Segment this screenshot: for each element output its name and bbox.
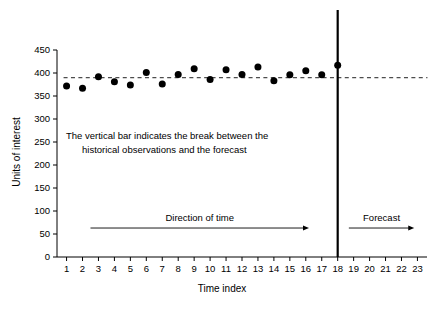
data-point xyxy=(127,81,134,88)
break-note-line-2: historical observations and the forecast xyxy=(82,144,247,155)
y-tick-label: 200 xyxy=(34,159,50,170)
data-point xyxy=(175,71,182,78)
y-axis-title: Units of interest xyxy=(11,117,22,187)
x-tick-label: 14 xyxy=(269,263,280,274)
y-tick-label: 400 xyxy=(34,67,50,78)
y-tick-label: 100 xyxy=(34,205,50,216)
x-tick-label: 5 xyxy=(128,263,133,274)
x-tick-label: 11 xyxy=(221,263,231,274)
x-tick-label: 12 xyxy=(237,263,248,274)
y-tick-label: 50 xyxy=(39,228,50,239)
x-tick-label: 3 xyxy=(96,263,101,274)
data-point xyxy=(159,81,166,88)
x-tick-label: 4 xyxy=(112,263,117,274)
x-tick-label: 8 xyxy=(176,263,181,274)
x-tick-label: 15 xyxy=(285,263,296,274)
chart-figure: 050100150200250300350400450 123456789101… xyxy=(0,0,444,309)
data-point xyxy=(286,71,293,78)
forecast-label: Forecast xyxy=(363,212,400,223)
direction-of-time-label: Direction of time xyxy=(165,212,234,223)
data-point xyxy=(302,67,309,74)
x-tick-label: 21 xyxy=(380,263,391,274)
y-tick-label: 350 xyxy=(34,90,50,101)
x-tick-label: 10 xyxy=(205,263,216,274)
x-tick-label: 6 xyxy=(144,263,149,274)
data-point xyxy=(111,78,118,85)
data-point xyxy=(270,77,277,84)
data-point xyxy=(318,71,325,78)
x-tick-label: 7 xyxy=(160,263,165,274)
data-point xyxy=(191,65,198,72)
data-point xyxy=(254,64,261,71)
y-tick-label: 250 xyxy=(34,136,50,147)
x-tick-label: 2 xyxy=(80,263,85,274)
data-point xyxy=(207,76,214,83)
x-axis-title: Time index xyxy=(198,283,247,294)
y-tick-label: 300 xyxy=(34,113,50,124)
y-tick-label: 150 xyxy=(34,182,50,193)
x-tick-label: 17 xyxy=(316,263,327,274)
data-point xyxy=(143,69,150,76)
x-tick-label: 16 xyxy=(301,263,312,274)
x-tick-label: 22 xyxy=(396,263,407,274)
break-note-line-1: The vertical bar indicates the break bet… xyxy=(66,130,268,141)
data-point xyxy=(79,85,86,92)
x-tick-label: 20 xyxy=(364,263,375,274)
data-point xyxy=(239,71,246,78)
x-tick-label: 1 xyxy=(64,263,69,274)
y-tick-label: 0 xyxy=(45,251,50,262)
x-tick-label: 18 xyxy=(332,263,343,274)
forecast-scatter-chart: 050100150200250300350400450 123456789101… xyxy=(0,0,444,309)
x-tick-label: 13 xyxy=(253,263,264,274)
data-point xyxy=(63,82,70,89)
data-point xyxy=(95,73,102,80)
x-tick-label: 19 xyxy=(348,263,359,274)
x-tick-label: 9 xyxy=(192,263,197,274)
y-tick-label: 450 xyxy=(34,44,50,55)
data-point xyxy=(223,66,230,73)
x-tick-label: 23 xyxy=(412,263,423,274)
